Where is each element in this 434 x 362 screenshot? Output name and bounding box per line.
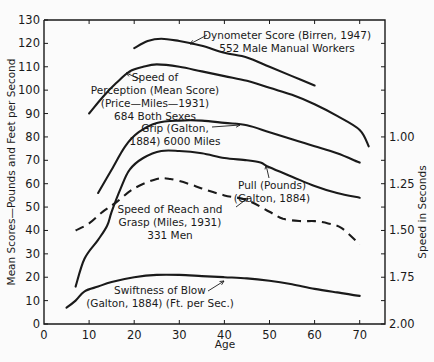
y-tick-label: 120 xyxy=(18,36,40,50)
series-group xyxy=(67,39,369,308)
y-right-tick-label: 1.00 xyxy=(389,130,415,144)
y-tick-label: 100 xyxy=(18,83,40,97)
x-tick-label: 60 xyxy=(307,328,322,342)
y-right-tick-label: 1.75 xyxy=(389,270,415,284)
plot-frame xyxy=(44,20,385,324)
x-axis-title: Age xyxy=(215,338,235,350)
y-tick-label: 20 xyxy=(25,270,40,284)
annotation-arrow xyxy=(212,125,240,127)
chart: 0102030405060700102030405060708090100110… xyxy=(0,0,434,362)
x-tick-label: 50 xyxy=(262,328,277,342)
y-tick-label: 90 xyxy=(25,107,40,121)
y-tick-label: 60 xyxy=(25,177,40,191)
y-axis-title: Mean Scores—Pounds and Feet per Second xyxy=(5,59,17,286)
x-tick-label: 30 xyxy=(172,328,187,342)
y-tick-label: 110 xyxy=(18,60,40,74)
annotation-label: Speed ofPerception (Mean Score)(Price—Mi… xyxy=(91,71,219,122)
y-right-axis-title: Speed in Seconds xyxy=(416,165,428,258)
x-tick-label: 70 xyxy=(352,328,367,342)
y-tick-label: 70 xyxy=(25,153,40,167)
axes: 0102030405060700102030405060708090100110… xyxy=(18,13,415,342)
y-tick-label: 30 xyxy=(25,247,40,261)
annotation-label: Swiftness of Blow(Galton, 1884) (Ft. per… xyxy=(86,284,234,309)
x-tick-label: 20 xyxy=(127,328,142,342)
y-tick-label: 10 xyxy=(25,294,40,308)
y-right-tick-label: 1.25 xyxy=(389,177,415,191)
y-tick-label: 0 xyxy=(33,317,40,331)
series-line-2 xyxy=(98,120,360,193)
annotation-label: Grip (Galton,1884) 6000 Miles xyxy=(129,122,220,147)
y-tick-label: 50 xyxy=(25,200,40,214)
annotation-label: Dynometer Score (Birren, 1947)552 Male M… xyxy=(203,29,371,54)
y-tick-label: 130 xyxy=(18,13,40,27)
y-right-tick-label: 2.00 xyxy=(389,317,415,331)
x-tick-label: 10 xyxy=(82,328,97,342)
y-tick-label: 40 xyxy=(25,223,40,237)
y-tick-label: 80 xyxy=(25,130,40,144)
annotation-label: Speed of Reach andGrasp (Miles, 1931)331… xyxy=(118,203,223,241)
y-right-tick-label: 1.50 xyxy=(389,223,415,237)
annotation-arrow xyxy=(208,281,224,291)
x-tick-label: 0 xyxy=(40,328,47,342)
